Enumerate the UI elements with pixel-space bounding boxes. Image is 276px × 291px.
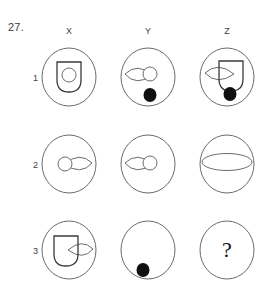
shield-icon [219,61,243,91]
matrix-cell-x1 [38,44,100,110]
matrix-cell-y1 [117,44,179,110]
column-header-y: Y [133,26,163,36]
matrix-cell-y2 [117,131,179,197]
row-label-3: 3 [26,246,38,256]
puzzle-container: 27. X Y Z 1 2 3 [0,0,276,291]
matrix-cell-x3 [38,217,100,283]
shield-icon [57,62,81,92]
oval-frame-icon [42,48,96,106]
small-circle-icon [58,157,72,171]
small-circle-icon [143,156,157,170]
oval-frame-icon [200,135,254,193]
black-dot-icon [137,263,150,277]
missing-figure-marker: ? [196,217,258,283]
column-header-x: X [54,26,84,36]
question-number: 27. [8,21,24,33]
row-label-2: 2 [26,160,38,170]
row-label-1: 1 [26,73,38,83]
matrix-cell-y3 [117,217,179,283]
small-circle-icon [143,67,157,81]
shield-icon [54,236,78,266]
oval-frame-icon [42,221,96,279]
matrix-cell-z1 [196,44,258,110]
matrix-cell-z2 [196,131,258,197]
matrix-cell-x2 [38,131,100,197]
lens-right-icon [68,244,93,256]
column-header-z: Z [212,26,242,36]
black-dot-icon [224,87,237,101]
black-dot-icon [144,88,157,102]
wide-ellipse-icon [202,154,252,171]
small-circle-icon [62,68,76,82]
